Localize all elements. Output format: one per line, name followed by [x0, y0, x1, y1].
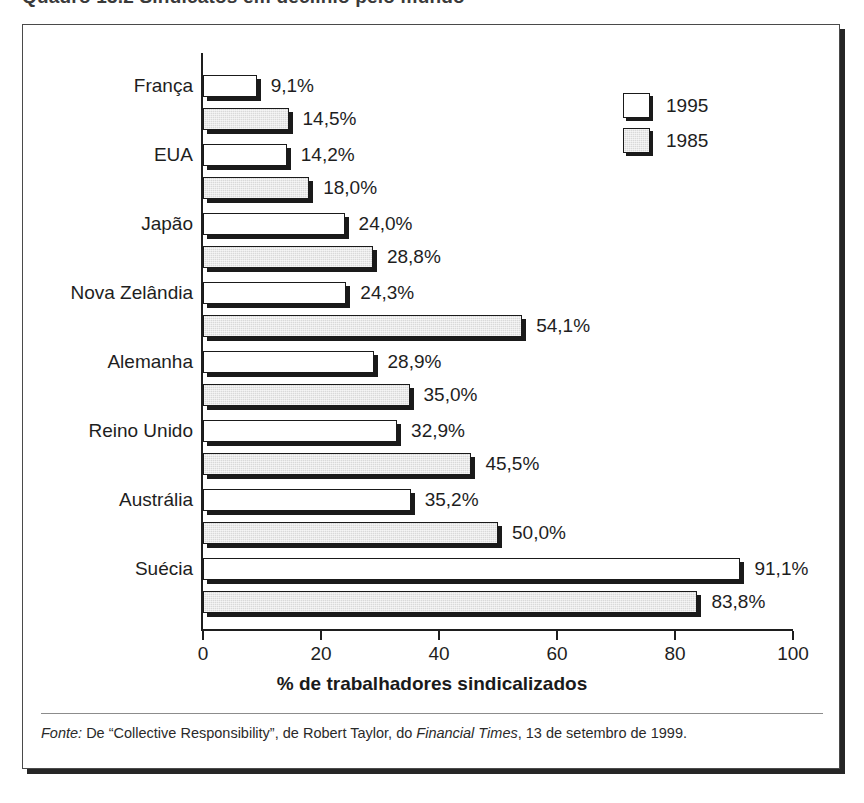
bar-value-franca-1985: 14,5% — [303, 108, 357, 130]
footnote-text-after: , 13 de setembro de 1999. — [518, 725, 687, 741]
bar-value-franca-1995: 9,1% — [271, 75, 314, 97]
bar-franca-1995 — [203, 75, 257, 97]
x-tick-label-60: 60 — [546, 643, 567, 665]
bar-suecia-1985 — [203, 591, 697, 613]
bar-australia-1985 — [203, 522, 498, 544]
bar-nz-1985 — [203, 315, 522, 337]
bar-value-australia-1985: 50,0% — [512, 522, 566, 544]
bar-suecia-1995 — [203, 558, 740, 580]
bar-franca-1985 — [203, 108, 289, 130]
y-axis-line — [201, 53, 203, 631]
legend-label-1995: 1995 — [666, 95, 708, 117]
bar-value-japao-1985: 28,8% — [387, 246, 441, 268]
x-tick-80 — [674, 631, 676, 640]
x-tick-label-20: 20 — [310, 643, 331, 665]
category-label-eua: EUA — [154, 144, 193, 166]
bar-value-reinounido-1995: 32,9% — [411, 420, 465, 442]
legend-label-1985: 1985 — [666, 130, 708, 152]
bar-nz-1995 — [203, 282, 346, 304]
chart-panel: 020406080100 FrançaEUAJapãoNova Zelândia… — [22, 24, 840, 769]
page-title: Quadro 13.2 Sindicatos em declínio pelo … — [22, 0, 465, 8]
bar-value-alemanha-1985: 35,0% — [424, 384, 478, 406]
footnote-prefix: Fonte: — [41, 725, 82, 741]
legend-item-1985: 1985 — [623, 128, 708, 153]
bar-value-alemanha-1995: 28,9% — [388, 351, 442, 373]
bar-value-eua-1995: 14,2% — [301, 144, 355, 166]
footnote-source-name: Financial Times — [416, 725, 517, 741]
x-tick-60 — [556, 631, 558, 640]
bar-eua-1985 — [203, 177, 309, 199]
category-label-alemanha: Alemanha — [107, 351, 193, 373]
x-tick-100 — [792, 631, 794, 640]
category-label-franca: França — [134, 75, 193, 97]
x-axis-line — [201, 629, 793, 631]
x-tick-label-100: 100 — [777, 643, 809, 665]
bar-value-suecia-1985: 83,8% — [711, 591, 765, 613]
gray-square-icon — [623, 128, 650, 153]
x-tick-label-40: 40 — [428, 643, 449, 665]
bar-australia-1995 — [203, 489, 411, 511]
x-tick-label-80: 80 — [664, 643, 685, 665]
bar-value-japao-1995: 24,0% — [359, 213, 413, 235]
chart-legend: 1995 1985 — [623, 93, 708, 163]
x-tick-20 — [320, 631, 322, 640]
bar-reinounido-1995 — [203, 420, 397, 442]
source-footnote: Fonte: De “Collective Responsibility”, d… — [41, 725, 827, 741]
footnote-text-before: De “Collective Responsibility”, de Rober… — [82, 725, 416, 741]
bar-reinounido-1985 — [203, 453, 471, 475]
bar-value-australia-1995: 35,2% — [425, 489, 479, 511]
category-label-nz: Nova Zelândia — [70, 282, 193, 304]
x-tick-0 — [202, 631, 204, 640]
bar-value-suecia-1995: 91,1% — [754, 558, 808, 580]
bar-value-eua-1985: 18,0% — [323, 177, 377, 199]
bar-value-nz-1995: 24,3% — [360, 282, 414, 304]
x-tick-40 — [438, 631, 440, 640]
white-square-icon — [623, 93, 650, 118]
category-label-australia: Austrália — [119, 489, 193, 511]
category-label-reinounido: Reino Unido — [88, 420, 193, 442]
category-label-japao: Japão — [141, 213, 193, 235]
chart-title-strip: Quadro 13.2 Sindicatos em declínio pelo … — [0, 0, 864, 14]
bar-value-reinounido-1985: 45,5% — [485, 453, 539, 475]
legend-item-1995: 1995 — [623, 93, 708, 118]
bar-eua-1995 — [203, 144, 287, 166]
bar-alemanha-1995 — [203, 351, 374, 373]
bar-japao-1995 — [203, 213, 345, 235]
bar-value-nz-1985: 54,1% — [536, 315, 590, 337]
plot-area: 020406080100 FrançaEUAJapãoNova Zelândia… — [23, 25, 841, 770]
bar-alemanha-1985 — [203, 384, 410, 406]
x-axis-title: % de trabalhadores sindicalizados — [23, 673, 841, 695]
category-label-suecia: Suécia — [135, 558, 193, 580]
bar-japao-1985 — [203, 246, 373, 268]
footnote-divider — [41, 713, 823, 714]
x-tick-label-0: 0 — [198, 643, 209, 665]
